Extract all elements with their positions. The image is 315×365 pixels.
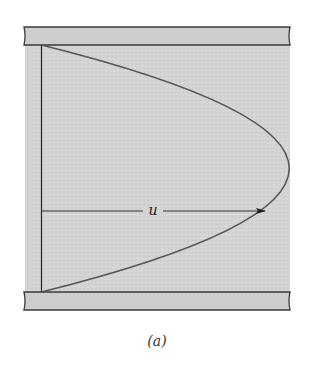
fluid-region xyxy=(25,45,290,292)
bottom-plate xyxy=(24,292,290,310)
velocity-profile-diagram: u (a) xyxy=(0,0,315,365)
figure-caption: (a) xyxy=(147,333,166,349)
top-plate xyxy=(24,27,290,45)
velocity-label: u xyxy=(148,202,157,218)
